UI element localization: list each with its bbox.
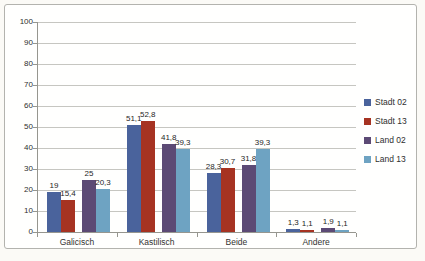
y-axis-tick-label: 40 [9, 143, 33, 153]
gridline [37, 64, 356, 65]
y-axis-tick-label: 10 [9, 206, 33, 216]
y-axis-tick-label: 50 [9, 122, 33, 132]
y-axis-tick-label: 0 [9, 227, 33, 237]
value-label-land-13: 20,3 [89, 178, 117, 188]
bar-stadt-02 [207, 173, 221, 232]
y-axis-tick-label: 20 [9, 185, 33, 195]
value-label-stadt-13: 52,8 [134, 110, 162, 120]
legend-label: Land 02 [375, 134, 406, 147]
y-axis-tick-label: 70 [9, 80, 33, 90]
gridline [37, 22, 356, 23]
gridline [37, 127, 356, 128]
bar-land-13 [176, 149, 190, 232]
bar-land-13 [335, 230, 349, 232]
bar-stadt-13 [61, 200, 75, 232]
legend-swatch-icon [364, 118, 371, 125]
value-label-land-02: 25 [75, 169, 103, 179]
legend-label: Stadt 02 [375, 96, 407, 109]
x-axis-tick [356, 233, 357, 237]
bar-land-02 [162, 144, 176, 232]
y-axis-tick-label: 60 [9, 101, 33, 111]
bar-land-13 [256, 149, 270, 232]
gridline [37, 85, 356, 86]
y-axis-tick-label: 80 [9, 59, 33, 69]
bar-stadt-13 [141, 121, 155, 232]
gridline [37, 106, 356, 107]
y-axis-tick-label: 90 [9, 38, 33, 48]
y-axis-line [37, 22, 38, 233]
legend-item-stadt-13: Stadt 13 [364, 115, 416, 134]
bar-land-13 [96, 189, 110, 232]
value-label-land-13: 39,3 [249, 138, 277, 148]
bar-stadt-02 [127, 125, 141, 232]
value-label-land-13: 39,3 [169, 138, 197, 148]
legend-label: Land 13 [375, 153, 406, 166]
legend-swatch-icon [364, 156, 371, 163]
value-label-land-13: 1,1 [328, 219, 356, 229]
legend-swatch-icon [364, 99, 371, 106]
chart-legend: Stadt 02Stadt 13Land 02Land 13 [364, 96, 416, 172]
category-label-kastilisch: Kastilisch [117, 237, 197, 248]
value-label-stadt-13: 15,4 [54, 189, 82, 199]
category-label-galicisch: Galicisch [37, 237, 117, 248]
legend-swatch-icon [364, 137, 371, 144]
bar-stadt-13 [300, 230, 314, 232]
legend-item-land-13: Land 13 [364, 153, 416, 172]
bar-stadt-02 [286, 229, 300, 232]
category-label-beide: Beide [197, 237, 277, 248]
legend-item-stadt-02: Stadt 02 [364, 96, 416, 115]
plot-area: 01020304050607080901001915,42520,3Galici… [0, 0, 425, 261]
legend-item-land-02: Land 02 [364, 134, 416, 153]
legend-label: Stadt 13 [375, 115, 407, 128]
bar-land-02 [242, 165, 256, 232]
gridline [37, 43, 356, 44]
bar-stadt-13 [221, 168, 235, 232]
y-axis-tick-label: 100 [9, 17, 33, 27]
category-label-andere: Andere [276, 237, 356, 248]
y-axis-tick-label: 30 [9, 164, 33, 174]
